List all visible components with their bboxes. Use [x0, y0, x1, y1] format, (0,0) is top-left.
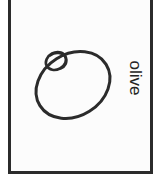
illustration-card: olive — [0, 0, 162, 186]
olive-body-shape — [23, 38, 122, 132]
olive-caption: olive — [114, 56, 158, 100]
